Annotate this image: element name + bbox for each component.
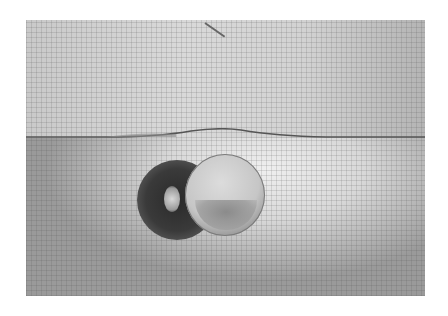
photo-upper-background — [26, 20, 425, 138]
shadow-highlight — [164, 186, 180, 212]
